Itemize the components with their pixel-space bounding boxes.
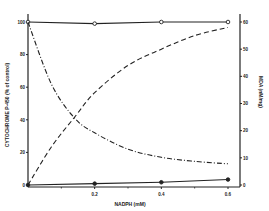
filled-circle-marker [226,178,230,182]
y2-tick-label: 10 [243,156,249,161]
y-axis-label: CYTOCHROME P-450 (% of control) [4,62,10,147]
y2-tick-label: 40 [243,74,249,79]
open-circle-marker [160,20,164,24]
y2-tick-label: 60 [243,20,249,25]
y-tick-label: 60 [20,85,26,90]
y-tick-label: 40 [20,118,26,123]
y-tick-label: 80 [20,52,26,57]
y-tick-label: 20 [20,150,26,155]
x-tick-label: 0.6 [225,192,232,197]
filled-circle-marker [160,180,164,184]
series-layer [26,20,230,187]
x-tick-label: 0.2 [92,192,99,197]
series-line-1 [28,180,228,185]
open-circle-marker [226,20,230,24]
series-line-3 [28,22,228,164]
chart: 02040608010001020304050600.20.40.6 NADPH… [0,0,269,211]
x-tick-label: 0.4 [158,192,165,197]
filled-circle-marker [93,182,97,186]
axes: 02040608010001020304050600.20.40.6 [17,14,248,197]
y-tick-label: 100 [17,20,25,25]
open-circle-marker [93,22,97,26]
y2-tick-label: 50 [243,47,249,52]
y2-tick-label: 0 [243,183,246,188]
chart-svg: 02040608010001020304050600.20.40.6 NADPH… [0,0,269,211]
y2-axis-label: MDA (nM/mg) [258,76,264,108]
y-tick-label: 0 [22,183,25,188]
y2-tick-label: 20 [243,128,249,133]
series-line-0 [28,22,228,24]
y2-tick-label: 30 [243,101,249,106]
x-axis-label: NADPH (mM) [114,201,145,207]
